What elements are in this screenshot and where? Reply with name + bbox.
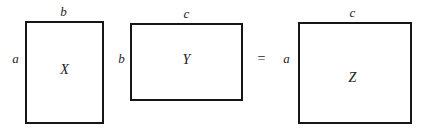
matrix-z-top-dimension-label: c [343,6,362,19]
matrix-x-left-dimension-label: a [9,52,22,65]
matrix-z-left-dimension-label: a [280,52,293,65]
matrix-z-name-label: Z [343,71,362,85]
matrix-y-top-dimension-label: c [177,7,196,20]
matrix-y-left-dimension-label: b [115,52,128,65]
matrix-y-name-label: Y [177,53,196,67]
matrix-dimension-diagram: b a X c b Y = c a Z [0,0,422,133]
equals-operator: = [254,52,269,66]
matrix-x-name-label: X [55,63,74,77]
matrix-x-top-dimension-label: b [54,5,73,18]
